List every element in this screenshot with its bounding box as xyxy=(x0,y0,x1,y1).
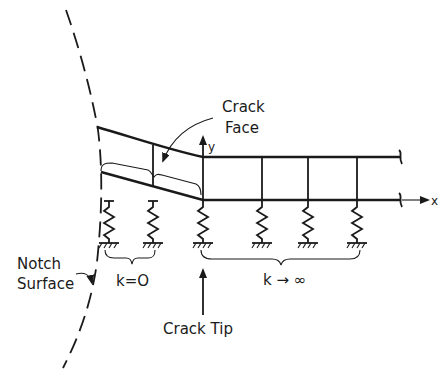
lower-crack-face xyxy=(101,172,400,200)
k-infinity-brace xyxy=(201,250,360,265)
crack-face-brace xyxy=(101,163,201,195)
spring-bonded xyxy=(252,201,272,248)
crack-tip-label: Crack Tip xyxy=(163,320,233,338)
notch-surface-leader xyxy=(76,273,92,283)
spring-bonded xyxy=(347,201,367,248)
crack-spring-diagram: x y Crack Face k=O k → ∞ xyxy=(0,0,445,382)
notch-surface-curve xyxy=(63,10,101,368)
k-zero-label: k=O xyxy=(116,272,149,290)
x-axis-label: x xyxy=(431,194,438,208)
y-axis-label: y xyxy=(208,140,215,154)
spring-free xyxy=(99,201,119,248)
crack-face-label-line2: Face xyxy=(225,119,259,137)
k-zero-brace xyxy=(105,250,155,264)
spring-free xyxy=(143,201,163,248)
k-infinity-label: k → ∞ xyxy=(263,271,306,289)
notch-surface-label-line2: Surface xyxy=(17,275,74,293)
spring-crack-tip xyxy=(193,201,213,248)
notch-surface-label-line1: Notch xyxy=(17,255,61,273)
spring-bonded xyxy=(298,201,318,248)
crack-face-label-line1: Crack xyxy=(222,98,265,116)
